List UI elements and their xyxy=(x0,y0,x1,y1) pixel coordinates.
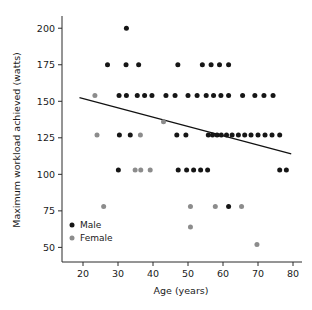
data-point-female xyxy=(188,204,193,209)
x-tick-label: 70 xyxy=(252,268,264,279)
data-point-male xyxy=(136,62,141,67)
y-axis-title: Maximum workload achieved (watts) xyxy=(11,52,22,228)
data-point-male xyxy=(117,93,122,98)
y-tick-label: 200 xyxy=(37,23,55,34)
data-point-female xyxy=(239,204,244,209)
data-point-male xyxy=(174,132,179,137)
data-point-male xyxy=(284,167,289,172)
data-point-male xyxy=(277,132,282,137)
data-point-male xyxy=(270,132,275,137)
data-point-female xyxy=(188,224,193,229)
legend-label-female: Female xyxy=(80,233,113,243)
data-point-male xyxy=(142,93,147,98)
data-point-male xyxy=(217,62,222,67)
scatter-plot-figure: 507510012515017520020304050607080Age (ye… xyxy=(0,0,312,310)
data-point-male xyxy=(204,93,209,98)
data-point-female xyxy=(101,204,106,209)
data-point-male xyxy=(128,132,133,137)
data-point-male xyxy=(226,204,231,209)
data-point-male xyxy=(117,132,122,137)
data-point-female xyxy=(148,167,153,172)
data-point-male xyxy=(195,93,200,98)
data-point-male xyxy=(219,132,224,137)
data-point-female xyxy=(161,119,166,124)
data-point-male xyxy=(200,62,205,67)
data-point-male xyxy=(209,62,214,67)
y-tick-label: 100 xyxy=(37,169,55,180)
data-point-male xyxy=(271,93,276,98)
data-point-female xyxy=(138,132,143,137)
data-point-male xyxy=(163,93,168,98)
data-point-male xyxy=(175,62,180,67)
data-point-male xyxy=(124,62,129,67)
data-point-male xyxy=(256,132,261,137)
data-point-male xyxy=(135,93,140,98)
data-point-female xyxy=(213,204,218,209)
data-point-male xyxy=(224,132,229,137)
data-point-female xyxy=(133,167,138,172)
data-point-male xyxy=(252,93,257,98)
data-point-male xyxy=(249,132,254,137)
x-axis-title: Age (years) xyxy=(154,285,209,296)
data-point-female xyxy=(95,132,100,137)
y-tick-label: 175 xyxy=(37,59,55,70)
data-point-male xyxy=(205,167,210,172)
data-point-male xyxy=(226,62,231,67)
data-point-male xyxy=(191,167,196,172)
data-point-male xyxy=(277,167,282,172)
data-point-male xyxy=(173,93,178,98)
x-tick-label: 20 xyxy=(77,268,89,279)
x-tick-label: 40 xyxy=(147,268,159,279)
x-tick-label: 60 xyxy=(217,268,229,279)
data-point-male xyxy=(242,132,247,137)
chart-canvas: 507510012515017520020304050607080Age (ye… xyxy=(0,0,312,310)
data-point-male xyxy=(124,93,129,98)
y-tick-label: 125 xyxy=(37,132,55,143)
legend-marker-female xyxy=(70,236,75,241)
data-point-male xyxy=(116,167,121,172)
data-point-male xyxy=(105,62,110,67)
data-point-male xyxy=(226,93,231,98)
data-point-male xyxy=(210,132,215,137)
data-point-male xyxy=(124,26,129,31)
data-point-male xyxy=(230,132,235,137)
y-tick-label: 75 xyxy=(43,205,55,216)
x-tick-label: 30 xyxy=(112,268,124,279)
data-point-female xyxy=(254,242,259,247)
data-point-male xyxy=(240,93,245,98)
y-tick-label: 50 xyxy=(43,242,55,253)
x-tick-label: 50 xyxy=(182,268,194,279)
data-point-male xyxy=(236,132,241,137)
data-point-male xyxy=(211,93,216,98)
data-point-male xyxy=(198,167,203,172)
data-point-male xyxy=(261,93,266,98)
data-point-male xyxy=(186,93,191,98)
y-tick-label: 150 xyxy=(37,96,55,107)
data-point-male xyxy=(176,167,181,172)
legend-marker-male xyxy=(70,223,75,228)
x-tick-label: 80 xyxy=(287,268,299,279)
data-point-male xyxy=(184,167,189,172)
data-point-male xyxy=(263,132,268,137)
data-point-male xyxy=(183,132,188,137)
data-point-female xyxy=(138,167,143,172)
legend-label-male: Male xyxy=(80,220,102,230)
regression-trend-line xyxy=(80,98,292,154)
data-point-male xyxy=(149,93,154,98)
data-point-female xyxy=(92,93,97,98)
data-point-male xyxy=(218,93,223,98)
